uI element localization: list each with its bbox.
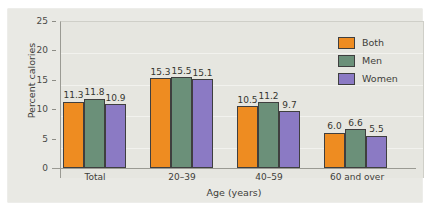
x-axis-line: [52, 168, 416, 169]
bar-20-39-women[interactable]: [192, 79, 213, 168]
legend-item-men[interactable]: Men: [338, 53, 424, 69]
legend-label-men: Men: [362, 56, 382, 66]
y-tick-label: 10: [30, 105, 48, 114]
x-axis-title: Age (years): [52, 187, 416, 198]
bar-60-over-women[interactable]: [366, 136, 387, 168]
y-tick-label: 0: [30, 164, 48, 173]
legend-label-women: Women: [362, 74, 398, 84]
y-tick-mark: [52, 109, 56, 110]
legend-swatch-both-icon: [338, 37, 355, 49]
y-tick-label: 25: [30, 17, 48, 26]
bar-value-total-women: 10.9: [103, 93, 128, 103]
y-tick-label: 15: [30, 76, 48, 85]
y-tick-mark: [52, 80, 56, 81]
bar-total-men[interactable]: [84, 99, 105, 168]
y-tick-label: 20: [30, 46, 48, 55]
bar-60-over-both[interactable]: [324, 133, 345, 168]
bar-40-59-women[interactable]: [279, 111, 300, 168]
legend-item-women[interactable]: Women: [338, 71, 424, 87]
bar-40-59-men[interactable]: [258, 102, 279, 168]
x-tick-label-40-59: 40–59: [238, 172, 300, 182]
y-tick-mark: [52, 21, 56, 22]
bar-value-40-59-women: 9.7: [277, 100, 302, 110]
bar-total-both[interactable]: [63, 102, 84, 168]
bar-20-39-men[interactable]: [171, 77, 192, 168]
bar-40-59-both[interactable]: [237, 106, 258, 168]
x-tick-label-60-and-over: 60 and over: [324, 172, 390, 182]
figure: Percent calories 25 20 15 10 5 0 Both Me…: [0, 0, 430, 213]
y-tick-mark: [52, 139, 56, 140]
legend-item-both[interactable]: Both: [338, 35, 424, 51]
legend-swatch-men-icon: [338, 55, 355, 67]
bar-20-39-both[interactable]: [150, 78, 171, 168]
legend-swatch-women-icon: [338, 73, 355, 85]
y-tick-mark: [52, 50, 56, 51]
bar-60-over-men[interactable]: [345, 129, 366, 168]
bar-total-women[interactable]: [105, 104, 126, 168]
x-tick-label-total: Total: [64, 172, 126, 182]
legend-label-both: Both: [362, 38, 384, 48]
bar-value-20-39-women: 15.1: [190, 68, 215, 78]
legend: Both Men Women: [338, 35, 424, 89]
bar-value-60-over-women: 5.5: [364, 124, 389, 134]
y-tick-label: 5: [30, 135, 48, 144]
x-tick-label-20-39: 20–39: [151, 172, 213, 182]
